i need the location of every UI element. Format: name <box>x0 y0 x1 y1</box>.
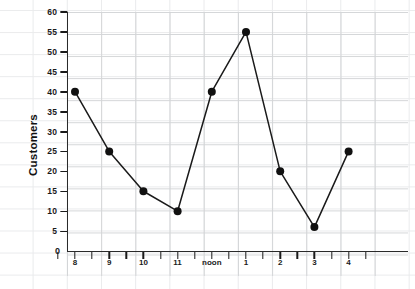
data-point-1[interactable] <box>242 28 250 36</box>
x-tick-mark-4 <box>348 252 349 259</box>
y-tick-label-10: 10 <box>47 206 67 216</box>
data-series-line <box>67 12 408 251</box>
x-tick-mark-2 <box>279 252 280 259</box>
data-point-3[interactable] <box>310 223 318 231</box>
data-point-9[interactable] <box>105 147 113 155</box>
x-tick-label-1: 1 <box>244 258 248 267</box>
x-tick-mark-minor <box>365 252 366 259</box>
plot-area <box>67 12 408 251</box>
x-axis-line <box>67 251 408 252</box>
data-point-noon[interactable] <box>208 88 216 96</box>
x-tick-mark-3 <box>314 252 315 259</box>
x-tick-mark-noon <box>211 252 212 259</box>
x-tick-mark-1 <box>245 252 246 259</box>
x-tick-label-8: 8 <box>73 258 77 267</box>
series-polyline <box>75 32 349 227</box>
data-point-2[interactable] <box>276 167 284 175</box>
y-tick-label-5: 5 <box>52 226 67 236</box>
x-tick-mark-10 <box>143 252 144 259</box>
chart-root: Customers 051015202530354045505560 89101… <box>0 0 415 289</box>
x-tick-mark-minor <box>228 252 229 259</box>
x-tick-label-3: 3 <box>312 258 316 267</box>
y-tick-label-40: 40 <box>47 87 67 97</box>
x-tick-mark-minor <box>91 252 92 259</box>
x-tick-label-10: 10 <box>139 258 148 267</box>
x-tick-label-9: 9 <box>107 258 111 267</box>
data-point-11[interactable] <box>174 207 182 215</box>
y-tick-label-55: 55 <box>47 27 67 37</box>
x-tick-label-noon: noon <box>202 258 222 267</box>
data-point-4[interactable] <box>345 147 353 155</box>
data-point-10[interactable] <box>139 187 147 195</box>
x-tick-mark-9 <box>108 252 109 259</box>
x-tick-mark-minor <box>297 252 298 259</box>
y-tick-label-30: 30 <box>47 127 67 137</box>
x-tick-mark-minor <box>126 252 127 259</box>
x-tick-mark-8 <box>74 252 75 259</box>
x-tick-label-2: 2 <box>278 258 282 267</box>
x-tick-mark-minor <box>331 252 332 259</box>
x-tick-mark-minor <box>160 252 161 259</box>
y-axis-title: Customers <box>27 114 39 176</box>
y-tick-label-35: 35 <box>47 107 67 117</box>
y-tick-label-50: 50 <box>47 47 67 57</box>
y-axis-line <box>67 12 68 252</box>
y-tick-label-20: 20 <box>47 166 67 176</box>
x-tick-mark-minor <box>194 252 195 259</box>
y-tick-label-45: 45 <box>47 67 67 77</box>
y-tick-label-15: 15 <box>47 186 67 196</box>
y-tick-label-60: 60 <box>47 7 67 17</box>
x-tick-label-11: 11 <box>173 258 181 267</box>
x-tick-mark-minor <box>57 252 58 259</box>
y-tick-label-25: 25 <box>47 146 67 156</box>
x-tick-mark-minor <box>262 252 263 259</box>
x-tick-mark-11 <box>177 252 178 259</box>
data-point-8[interactable] <box>71 88 79 96</box>
x-tick-label-4: 4 <box>346 258 350 267</box>
